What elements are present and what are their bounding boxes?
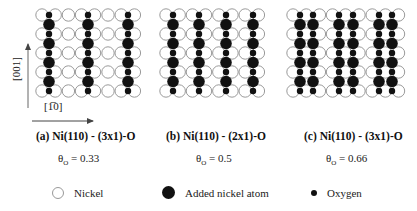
oxygen-atom	[170, 88, 176, 94]
added-nickel-atom	[373, 76, 385, 88]
oxygen-atom	[297, 31, 303, 37]
panel-c-caption: (c) Ni(110) - (3x1)-O	[304, 130, 403, 142]
nickel-atom	[102, 47, 114, 59]
added-nickel-atom	[193, 19, 205, 31]
added-nickel-atom	[220, 38, 232, 50]
panel-a-lattice	[36, 9, 141, 97]
added-nickel-atom	[43, 19, 55, 31]
oxygen-atom	[297, 12, 303, 18]
added-nickel-atom	[294, 57, 306, 69]
oxygen-atom	[310, 50, 316, 56]
oxygen-atom	[350, 31, 356, 37]
added-nickel-atom	[82, 38, 94, 50]
added-nickel-atom	[307, 19, 319, 31]
oxygen-atom	[389, 69, 395, 75]
oxygen-atom	[376, 88, 382, 94]
added-nickel-filled-circle-icon	[162, 186, 175, 199]
panel-c-lattice	[287, 9, 405, 97]
nickel-atom	[102, 9, 114, 21]
added-nickel-atom	[373, 57, 385, 69]
oxygen-atom	[46, 69, 52, 75]
added-nickel-atom	[43, 38, 55, 50]
nickel-atom	[62, 47, 74, 59]
coverage-value: = 0.5	[209, 152, 232, 164]
nickel-atom	[102, 85, 114, 97]
added-nickel-atom	[347, 57, 359, 69]
nickel-atom	[62, 66, 74, 78]
added-nickel-atom	[82, 76, 94, 88]
added-nickel-atom	[307, 57, 319, 69]
oxygen-atom	[196, 31, 202, 37]
oxygen-atom	[250, 12, 256, 18]
oxygen-atom	[170, 50, 176, 56]
added-nickel-atom	[193, 38, 205, 50]
oxygen-atom	[125, 50, 131, 56]
oxygen-atom	[223, 31, 229, 37]
added-nickel-atom	[167, 19, 179, 31]
oxygen-atom	[223, 69, 229, 75]
theta-subscript: O	[201, 159, 206, 167]
added-nickel-atom	[386, 57, 398, 69]
nickel-atom	[239, 28, 251, 40]
nickel-atom	[102, 66, 114, 78]
added-nickel-atom	[122, 57, 134, 69]
added-nickel-atom	[247, 38, 259, 50]
added-nickel-atom	[220, 76, 232, 88]
oxygen-dot-icon	[311, 190, 317, 196]
added-nickel-atom	[347, 38, 359, 50]
lattice-diagram	[0, 0, 417, 211]
oxygen-atom	[250, 50, 256, 56]
added-nickel-atom	[193, 57, 205, 69]
legend-oxygen: Oxygen	[311, 187, 362, 199]
added-nickel-atom	[167, 76, 179, 88]
panel-b-lattice	[160, 9, 265, 97]
added-nickel-atom	[347, 76, 359, 88]
oxygen-atom	[125, 88, 131, 94]
added-nickel-atom	[122, 19, 134, 31]
oxygen-atom	[389, 88, 395, 94]
added-nickel-atom	[122, 38, 134, 50]
oxygen-atom	[223, 88, 229, 94]
oxygen-atom	[376, 12, 382, 18]
oxygen-atom	[125, 31, 131, 37]
theta-subscript: O	[63, 159, 68, 167]
oxygen-atom	[350, 50, 356, 56]
oxygen-atom	[250, 69, 256, 75]
oxygen-atom	[350, 88, 356, 94]
oxygen-atom	[389, 50, 395, 56]
added-nickel-atom	[247, 19, 259, 31]
panel-a-coverage: θO = 0.33	[58, 152, 99, 167]
panel-a-caption: (a) Ni(110) - (3x1)-O	[36, 130, 135, 142]
added-nickel-atom	[386, 38, 398, 50]
panel-b-caption: (b) Ni(110) - (2x1)-O	[166, 130, 266, 142]
oxygen-atom	[310, 12, 316, 18]
added-nickel-atom	[43, 76, 55, 88]
oxygen-atom	[350, 69, 356, 75]
nickel-atom	[239, 47, 251, 59]
added-nickel-atom	[82, 57, 94, 69]
added-nickel-atom	[386, 19, 398, 31]
axis-1-10-label: [1̅0]	[44, 100, 62, 112]
added-nickel-atom	[294, 38, 306, 50]
nickel-open-circle-icon	[52, 187, 64, 199]
axis-001-label: [001]	[10, 57, 22, 81]
nickel-atom	[239, 66, 251, 78]
oxygen-atom	[170, 31, 176, 37]
oxygen-atom	[310, 31, 316, 37]
oxygen-atom	[125, 69, 131, 75]
oxygen-atom	[85, 12, 91, 18]
added-nickel-atom	[333, 38, 345, 50]
oxygen-atom	[310, 88, 316, 94]
nickel-atom	[239, 9, 251, 21]
theta-subscript: O	[331, 159, 336, 167]
oxygen-atom	[297, 69, 303, 75]
oxygen-atom	[336, 88, 342, 94]
oxygen-atom	[376, 69, 382, 75]
added-nickel-atom	[82, 19, 94, 31]
added-nickel-atom	[167, 57, 179, 69]
added-nickel-atom	[347, 19, 359, 31]
nickel-atom	[239, 85, 251, 97]
added-nickel-atom	[193, 76, 205, 88]
added-nickel-atom	[333, 19, 345, 31]
added-nickel-atom	[307, 76, 319, 88]
